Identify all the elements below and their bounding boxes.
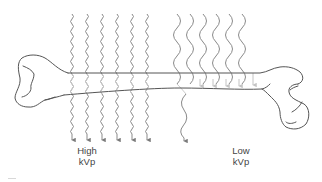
- low-kvp-penetrating-beam-in-bone: [177, 84, 186, 94]
- low-kvp-label: Low kVp: [221, 145, 261, 167]
- high-kvp-label-line1: High: [67, 145, 107, 156]
- bone-left-epiphysis: [15, 55, 68, 107]
- high-kvp-beams-exit: [71, 94, 149, 140]
- low-kvp-label-line2: kVp: [221, 156, 261, 167]
- bone-right-epiphysis: [262, 84, 309, 129]
- low-kvp-penetrating-beam: [181, 94, 187, 141]
- bone-right-inner-line: [292, 102, 302, 112]
- high-kvp-label: High kVp: [67, 145, 107, 167]
- low-kvp-label-line1: Low: [221, 145, 261, 156]
- femur-bone: [15, 55, 309, 129]
- figure-mark: [8, 178, 16, 179]
- bone-left-inner-line: [22, 66, 34, 97]
- high-kvp-label-line2: kVp: [67, 156, 107, 167]
- high-kvp-beams: [71, 14, 149, 94]
- xray-penetration-diagram: [0, 0, 322, 182]
